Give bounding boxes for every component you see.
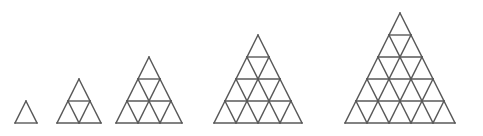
triangle-sequence-svg — [0, 0, 483, 136]
triangle-sequence-figure: Sequence of subdivided equilateral trian… — [0, 0, 483, 136]
